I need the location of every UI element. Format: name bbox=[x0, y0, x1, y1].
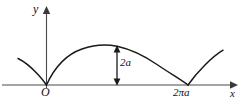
origin-label: O bbox=[41, 86, 50, 98]
cycloid-left-partial-arch bbox=[18, 59, 47, 86]
height-dimension-label: 2a bbox=[120, 57, 131, 68]
cycloid-figure: y x O 2πa 2a bbox=[0, 0, 242, 105]
x-axis-label: x bbox=[230, 88, 235, 99]
y-axis bbox=[43, 6, 50, 88]
arrow-up-icon bbox=[43, 6, 50, 14]
y-axis-label: y bbox=[33, 3, 38, 15]
x-axis bbox=[2, 81, 238, 89]
x-tick-label-2pia: 2πa bbox=[173, 87, 190, 98]
cycloid-right-partial-arch bbox=[188, 50, 223, 85]
